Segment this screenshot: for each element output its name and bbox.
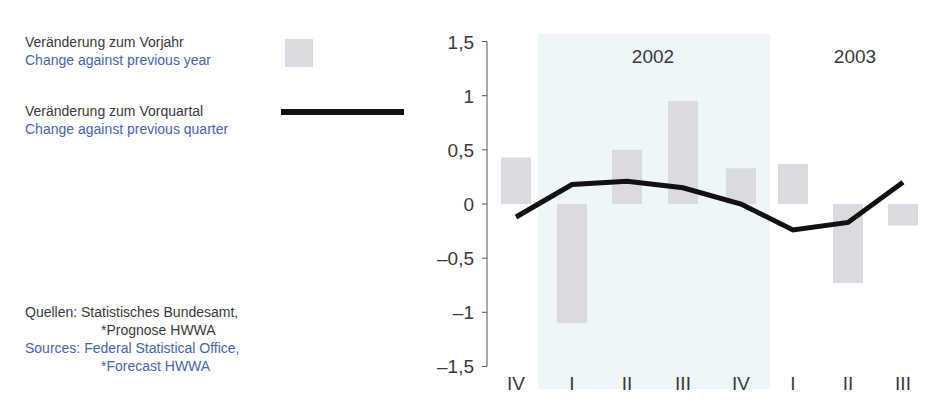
y-tick-label: –1,5: [437, 356, 474, 377]
y-tick-label: 1,5: [448, 32, 474, 53]
y-tick-label: 0,5: [448, 140, 474, 161]
chart: 1,510,50–0,5–1–1,5IVIIIIIIIVIIIIII200220…: [0, 0, 941, 411]
x-tick-label: II: [843, 373, 854, 394]
bar: [612, 150, 642, 204]
x-tick-label: IV: [507, 373, 525, 394]
y-tick-label: 0: [463, 194, 474, 215]
y-tick-label: –0,5: [437, 248, 474, 269]
x-tick-label: I: [569, 373, 574, 394]
bar: [888, 204, 918, 226]
year-label-2003: 2003: [834, 46, 876, 67]
x-tick-label: III: [895, 373, 911, 394]
y-tick-label: 1: [463, 86, 474, 107]
bar: [778, 164, 808, 204]
y-tick-label: –1: [453, 302, 474, 323]
x-tick-label: III: [675, 373, 691, 394]
x-tick-label: I: [790, 373, 795, 394]
x-tick-label: II: [622, 373, 633, 394]
bar: [501, 157, 531, 204]
x-tick-label: IV: [732, 373, 750, 394]
year-label-2002: 2002: [632, 46, 674, 67]
bar: [557, 204, 587, 323]
